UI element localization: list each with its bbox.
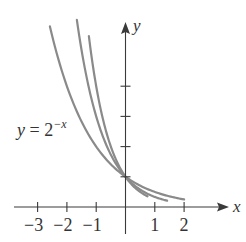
curve-label: y = 2−x bbox=[15, 117, 67, 140]
curves-group bbox=[50, 20, 184, 201]
x-tick-label: −3 bbox=[24, 215, 43, 235]
curve-label-exponent: −x bbox=[53, 117, 67, 131]
x-tick-label: −1 bbox=[83, 215, 102, 235]
x-tick-label: −2 bbox=[53, 215, 72, 235]
curve-label-eq: = 2 bbox=[25, 120, 53, 140]
curve-label-y: y bbox=[15, 120, 25, 140]
x-tick-label: 2 bbox=[180, 215, 189, 235]
exponential-decay-chart: x y −3−2−112 y = 2−x bbox=[0, 0, 246, 242]
curve-base-2 bbox=[50, 26, 184, 199]
x-axis-label: x bbox=[232, 197, 241, 216]
x-tick-label: 1 bbox=[150, 215, 159, 235]
y-axis-label: y bbox=[131, 16, 141, 35]
